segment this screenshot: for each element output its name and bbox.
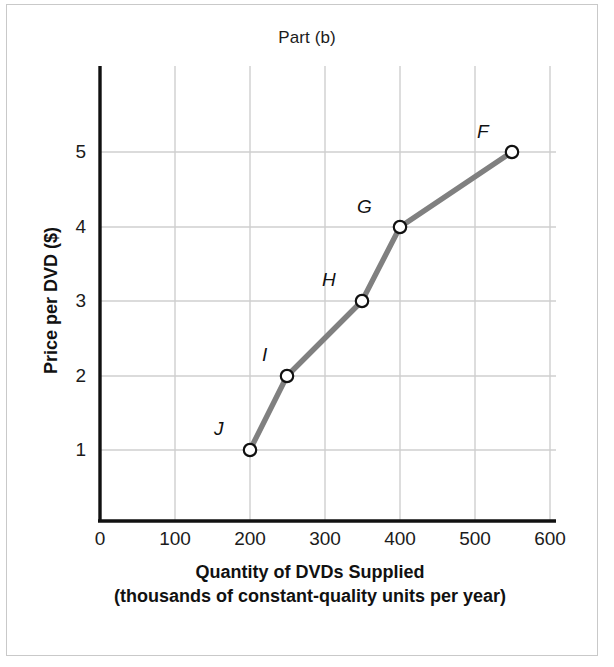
y-axis-title: Price per DVD ($) — [41, 171, 62, 431]
point-label-g: G — [357, 196, 372, 218]
xtick-label-500: 500 — [445, 528, 505, 550]
xtick-label-200: 200 — [220, 528, 280, 550]
x-axis-title-line2: (thousands of constant-quality units per… — [40, 585, 580, 609]
ytick-label-5: 5 — [56, 141, 86, 163]
data-point-f — [506, 146, 518, 158]
gridlines-horizontal — [100, 152, 556, 450]
data-point-i — [281, 370, 293, 382]
data-point-j — [244, 444, 256, 456]
xtick-label-300: 300 — [295, 528, 355, 550]
x-axis-title-line1: Quantity of DVDs Supplied — [40, 561, 580, 585]
xtick-label-400: 400 — [370, 528, 430, 550]
x-axis-title: Quantity of DVDs Supplied (thousands of … — [40, 561, 580, 609]
data-point-g — [394, 221, 406, 233]
point-label-i: I — [262, 344, 267, 366]
ytick-label-1: 1 — [56, 439, 86, 461]
xtick-label-0: 0 — [70, 528, 130, 550]
gridlines-vertical — [175, 66, 550, 521]
point-label-f: F — [477, 121, 489, 143]
xtick-label-600: 600 — [520, 528, 580, 550]
xtick-label-100: 100 — [145, 528, 205, 550]
chart-figure: Part (b) — [0, 0, 614, 667]
point-label-h: H — [322, 269, 336, 291]
point-label-j: J — [214, 418, 224, 440]
data-point-h — [356, 295, 368, 307]
